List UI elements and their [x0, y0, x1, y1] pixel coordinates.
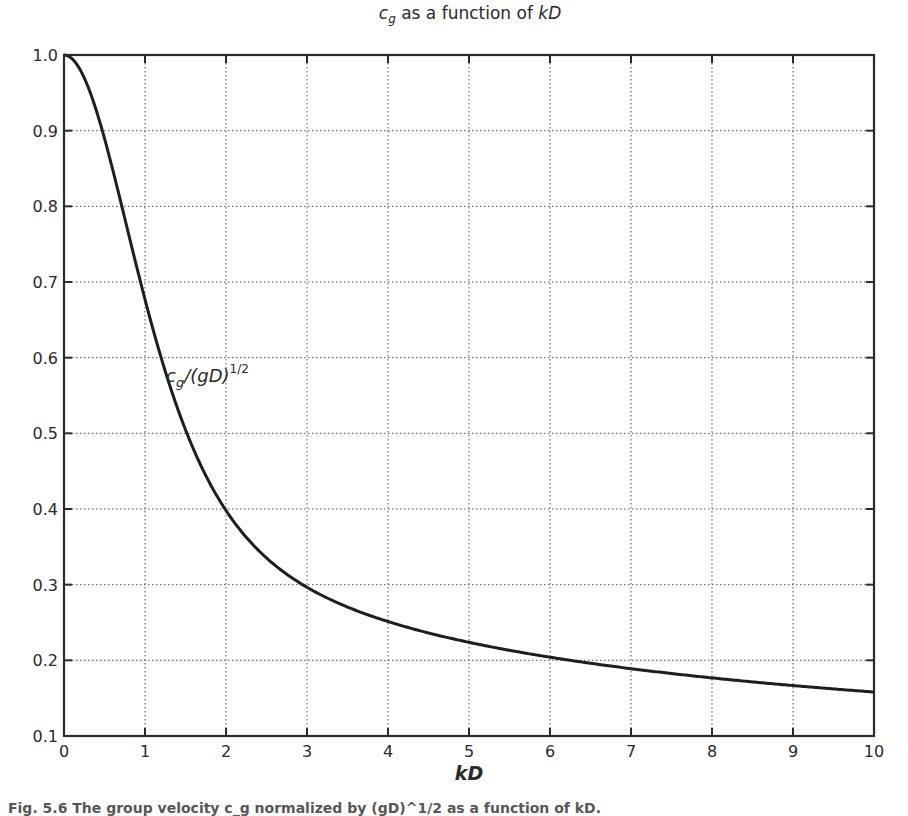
x-tick-label: 6	[545, 742, 555, 761]
x-tick-label: 2	[221, 742, 231, 761]
curve-label: cg/(gD)1/2	[166, 362, 249, 390]
x-tick-label: 5	[464, 742, 474, 761]
y-tick-label: 0.6	[33, 349, 58, 368]
grid-lines	[64, 55, 874, 736]
y-tick-label: 0.3	[33, 576, 58, 595]
y-tick-label: 0.5	[33, 424, 58, 443]
figure-caption: Fig. 5.6 The group velocity c_g normaliz…	[8, 800, 601, 816]
x-tick-label: 9	[788, 742, 798, 761]
x-tick-label: 8	[707, 742, 717, 761]
x-axis-label: kD	[455, 762, 483, 784]
x-tick-labels: 012345678910	[59, 742, 884, 761]
x-tick-label: 1	[140, 742, 150, 761]
y-tick-label: 0.1	[33, 727, 58, 746]
y-tick-label: 0.2	[33, 651, 58, 670]
y-tick-labels: 0.10.20.30.40.50.60.70.80.91.0	[33, 46, 58, 746]
y-tick-label: 0.9	[33, 122, 58, 141]
chart-title: cg as a function of kD	[379, 3, 561, 26]
x-tick-label: 0	[59, 742, 69, 761]
x-tick-label: 3	[302, 742, 312, 761]
x-tick-label: 7	[626, 742, 636, 761]
x-tick-label: 4	[383, 742, 393, 761]
y-tick-label: 0.8	[33, 197, 58, 216]
y-tick-label: 0.4	[33, 500, 58, 519]
y-tick-label: 0.7	[33, 273, 58, 292]
y-tick-label: 1.0	[33, 46, 58, 65]
x-tick-label: 10	[864, 742, 884, 761]
